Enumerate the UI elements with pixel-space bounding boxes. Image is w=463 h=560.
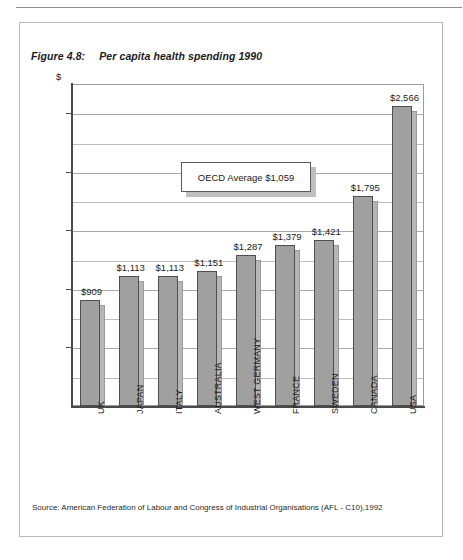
bar-value-label: $1,151 xyxy=(179,257,239,268)
x-axis-category-usa: USA xyxy=(408,395,418,414)
source-note: Source: American Federation of Labour an… xyxy=(32,503,383,512)
bar-value-label: $1,421 xyxy=(296,226,356,237)
bar-uk[interactable] xyxy=(80,300,100,406)
bar-chart: $ 05001,0001,5002,0002,500$909UK$1,113JA… xyxy=(0,0,463,560)
x-axis-category-japan: JAPAN xyxy=(135,385,145,414)
y-axis-tick-mark xyxy=(66,347,72,348)
oecd-callout-label: OECD Average $1,059 xyxy=(198,172,294,183)
y-axis-unit-label: $ xyxy=(56,71,61,82)
x-axis-category-france: FRANCE xyxy=(291,376,301,414)
x-axis-category-west-germany: WEST GERMANY xyxy=(252,338,262,414)
bar-value-label: $1,287 xyxy=(218,241,278,252)
x-axis-category-italy: ITALY xyxy=(174,389,184,414)
y-axis-tick-mark xyxy=(66,113,72,114)
x-axis-category-uk: UK xyxy=(96,401,106,414)
x-axis-category-australia: AUSTRALIA xyxy=(213,362,223,414)
bar-italy[interactable] xyxy=(158,276,178,406)
y-axis-line xyxy=(71,83,73,408)
bar-usa[interactable] xyxy=(392,106,412,406)
y-axis-tick-mark xyxy=(66,172,72,173)
bar-value-label: $1,795 xyxy=(335,182,395,193)
bar-value-label: $2,566 xyxy=(374,92,434,103)
bar-value-label: $909 xyxy=(62,286,122,297)
x-axis-category-canada: CANADA xyxy=(369,375,379,414)
y-axis-tick-mark xyxy=(66,230,72,231)
x-axis-category-sweden: SWEDEN xyxy=(330,373,340,414)
gridline-major xyxy=(72,114,423,115)
oecd-average-callout: OECD Average $1,059 xyxy=(181,162,311,192)
gridline-minor xyxy=(72,144,423,145)
